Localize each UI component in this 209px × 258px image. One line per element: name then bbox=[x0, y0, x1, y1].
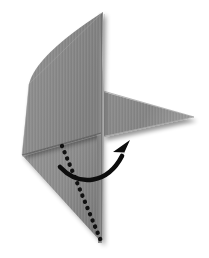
origami-figure: Origami folding step diagram valley fold… bbox=[0, 0, 209, 258]
origami-illustration-svg: Origami folding step diagram valley fold… bbox=[0, 0, 209, 258]
